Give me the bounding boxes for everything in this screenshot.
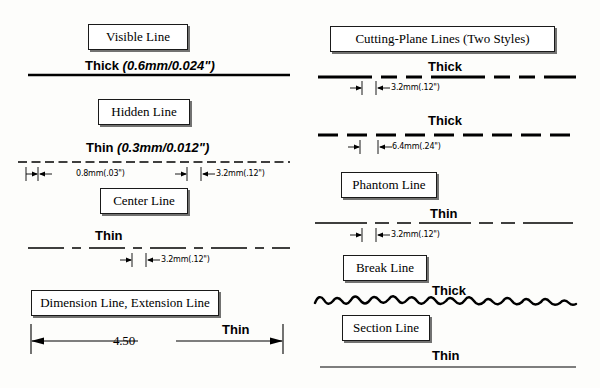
label-box-center-line: Center Line bbox=[100, 188, 188, 214]
line-specimen-visible-line bbox=[28, 70, 290, 80]
line-specimen-hidden-line bbox=[18, 158, 290, 166]
callout-text-cutting-plane-2-gap: 6.4mm(.24") bbox=[392, 142, 441, 151]
dimension-value: 4.50 bbox=[113, 333, 135, 349]
weight-annotation-section-line: Thin bbox=[432, 348, 459, 363]
weight-annotation-hidden-line: Thin (0.3mm/0.012") bbox=[86, 140, 209, 155]
label-cutting-plane-lines: Cutting-Plane Lines (Two Styles) bbox=[355, 31, 529, 47]
label-box-visible-line: Visible Line bbox=[88, 24, 188, 50]
weight-annotation-cutting-plane-2: Thick bbox=[428, 113, 462, 128]
weight-section-line: Thin bbox=[432, 348, 459, 363]
label-visible-line: Visible Line bbox=[106, 29, 170, 45]
label-box-section-line: Section Line bbox=[342, 315, 430, 341]
weight-cutting-plane-2: Thick bbox=[428, 113, 462, 128]
callout-text-cutting-plane-1-gap: 3.2mm(.12") bbox=[391, 83, 440, 92]
label-center-line: Center Line bbox=[113, 193, 175, 209]
label-box-break-line: Break Line bbox=[343, 255, 427, 281]
callout-text-hidden-line-gap: 3.2mm(.12") bbox=[216, 169, 265, 178]
weight-hidden-line: Thin bbox=[86, 140, 113, 155]
line-specimen-phantom-line bbox=[315, 219, 573, 227]
label-box-hidden-line: Hidden Line bbox=[98, 99, 190, 125]
line-specimen-cutting-plane-line-style-1 bbox=[318, 72, 576, 82]
line-types-reference-sheet: Visible Line Thick (0.6mm/0.024") Hidden… bbox=[0, 0, 600, 388]
weight-spec-hidden-line: (0.3mm/0.012") bbox=[117, 140, 209, 155]
line-specimen-center-line bbox=[28, 244, 290, 252]
line-specimen-dimension-line bbox=[28, 324, 286, 358]
line-specimen-section-line bbox=[320, 364, 576, 370]
label-box-phantom-line: Phantom Line bbox=[341, 172, 437, 198]
callout-text-phantom-line-gap: 3.2mm(.12") bbox=[391, 230, 440, 239]
callout-text-hidden-line-dash: 0.8mm(.03") bbox=[76, 169, 125, 178]
label-box-dimension-extension-line: Dimension Line, Extension Line bbox=[31, 290, 219, 316]
label-hidden-line: Hidden Line bbox=[111, 104, 176, 120]
weight-center-line: Thin bbox=[95, 228, 122, 243]
label-section-line: Section Line bbox=[353, 320, 419, 336]
label-break-line: Break Line bbox=[356, 260, 414, 276]
line-specimen-break-line bbox=[315, 291, 577, 311]
weight-annotation-center-line: Thin bbox=[95, 228, 122, 243]
label-box-cutting-plane-lines: Cutting-Plane Lines (Two Styles) bbox=[330, 26, 555, 52]
callout-hidden-line-dash bbox=[24, 166, 84, 182]
callout-text-center-line-gap: 3.2mm(.12") bbox=[161, 255, 210, 264]
label-phantom-line: Phantom Line bbox=[352, 177, 425, 193]
label-dimension-extension-line: Dimension Line, Extension Line bbox=[40, 295, 210, 311]
